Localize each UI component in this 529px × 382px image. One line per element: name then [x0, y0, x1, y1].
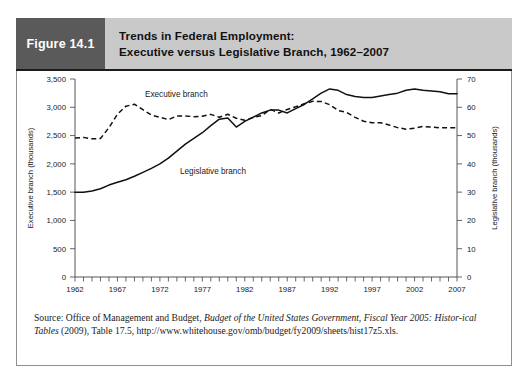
- x-tick-label-2007: 2007: [448, 285, 465, 294]
- right-tick-label-10: 10: [467, 245, 476, 254]
- source-note: Source: Office of Management and Budget,…: [34, 311, 496, 337]
- figure-title-line-1: Trends in Federal Employment:: [119, 28, 512, 44]
- right-axis-title: Legislative branch (thousands): [490, 126, 499, 230]
- figure-header: Figure 14.1 Trends in Federal Employment…: [16, 18, 512, 71]
- right-tick-label-40: 40: [467, 160, 476, 169]
- left-tick-label-2500: 2,500: [46, 131, 66, 140]
- source-italic-part-1: Budget of the United States Government, …: [204, 312, 462, 323]
- x-tick-label-1972: 1972: [151, 285, 168, 294]
- x-axis-tick-labels: 1962196719721977198219871992199720022007: [66, 285, 465, 294]
- figure-container: Figure 14.1 Trends in Federal Employment…: [16, 18, 512, 366]
- figure-number-box: Figure 14.1: [16, 18, 105, 69]
- right-tick-label-70: 70: [467, 75, 476, 84]
- x-tick-label-1977: 1977: [194, 285, 211, 294]
- right-tick-label-60: 60: [467, 103, 476, 112]
- x-tick-label-2002: 2002: [406, 285, 423, 294]
- right-tick-label-30: 30: [467, 188, 476, 197]
- figure-title-box: Trends in Federal Employment: Executive …: [105, 18, 512, 69]
- left-axis-title: Executive branch (thousands): [26, 127, 35, 228]
- x-tick-label-1987: 1987: [279, 285, 296, 294]
- figure-number-label: Figure 14.1: [26, 37, 94, 51]
- right-tick-label-50: 50: [467, 131, 476, 140]
- left-tick-label-3500: 3,500: [46, 75, 66, 84]
- series-annotation-legislative-branch: Legislative branch: [180, 167, 246, 176]
- right-tick-label-20: 20: [467, 216, 476, 225]
- left-tick-label-3000: 3,000: [46, 103, 66, 112]
- left-tick-label-500: 500: [53, 245, 67, 254]
- right-axis-ticks: 0 10 20 30 40 50 60 70: [457, 75, 476, 282]
- right-tick-label-0: 0: [467, 273, 472, 282]
- x-axis-minor-ticks: [75, 277, 457, 282]
- source-suffix: (2009), Table 17.5, http://www.whitehous…: [59, 325, 398, 336]
- x-tick-label-1967: 1967: [109, 285, 126, 294]
- x-tick-label-1997: 1997: [363, 285, 380, 294]
- x-tick-label-1982: 1982: [236, 285, 253, 294]
- left-tick-label-2000: 2,000: [46, 160, 66, 169]
- left-tick-label-1000: 1,000: [46, 216, 66, 225]
- source-prefix: Source: Office of Management and Budget,: [34, 312, 204, 323]
- chart-area: 0 500 1,000 1,500 2,000 2,500 3,000 3,50…: [17, 71, 511, 303]
- series-line-executive-branch: [75, 101, 457, 139]
- left-tick-label-0: 0: [62, 273, 67, 282]
- left-axis-ticks: 0 500 1,000 1,500 2,000 2,500 3,000 3,50…: [46, 75, 75, 282]
- series-line-legislative-branch: [75, 89, 457, 192]
- x-tick-label-1992: 1992: [321, 285, 338, 294]
- x-tick-label-1962: 1962: [66, 285, 83, 294]
- figure-title-line-2: Executive versus Legislative Branch, 196…: [119, 44, 512, 60]
- line-chart-svg: 0 500 1,000 1,500 2,000 2,500 3,000 3,50…: [17, 71, 511, 303]
- series-annotation-executive-branch: Executive branch: [145, 90, 208, 99]
- figure-body: 0 500 1,000 1,500 2,000 2,500 3,000 3,50…: [16, 71, 512, 366]
- left-tick-label-1500: 1,500: [46, 188, 66, 197]
